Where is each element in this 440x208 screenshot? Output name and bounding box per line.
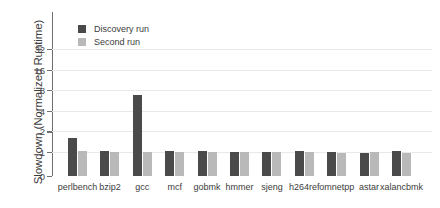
bar-group xyxy=(262,12,281,176)
legend-item-second-run: Second run xyxy=(78,35,149,48)
bar-second-run xyxy=(240,152,249,176)
bar-group xyxy=(230,12,249,176)
bar-second-run xyxy=(208,152,217,176)
x-tick-label: xalancbmk xyxy=(380,182,423,192)
bar-second-run xyxy=(110,152,119,176)
bar-discovery-run xyxy=(100,151,109,176)
bar-discovery-run xyxy=(360,153,369,176)
bar-second-run xyxy=(78,151,87,176)
bar-group xyxy=(392,12,411,176)
bar-discovery-run xyxy=(165,151,174,176)
y-axis-title: Slowdown (Normalized Runtime) xyxy=(32,12,44,192)
bar-discovery-run xyxy=(327,152,336,176)
legend-label: Second run xyxy=(94,37,140,47)
bar-discovery-run xyxy=(68,138,77,176)
bar-discovery-run xyxy=(133,95,142,176)
x-tick-label: bzip2 xyxy=(99,182,121,192)
bar-second-run xyxy=(143,152,152,176)
bar-second-run xyxy=(370,152,379,176)
y-tick-label: 1 xyxy=(40,147,45,158)
y-tick-label: 32 xyxy=(34,44,45,55)
bar-discovery-run xyxy=(262,152,271,176)
tick-mark xyxy=(47,176,52,177)
bar-discovery-run xyxy=(198,151,207,176)
x-tick-label: mcf xyxy=(167,182,182,192)
legend-swatch-icon xyxy=(78,25,86,33)
legend-swatch-icon xyxy=(78,38,86,46)
y-tick-label: 8 xyxy=(40,85,45,96)
bar-second-run xyxy=(272,152,281,176)
y-tick-label: 4 xyxy=(40,105,45,116)
legend: Discovery run Second run xyxy=(78,22,149,48)
legend-label: Discovery run xyxy=(94,24,149,34)
bar-group xyxy=(360,12,379,176)
bar-second-run xyxy=(175,152,184,176)
bar-second-run xyxy=(305,152,314,176)
legend-item-discovery-run: Discovery run xyxy=(78,22,149,35)
bar-discovery-run xyxy=(230,152,239,176)
x-tick-label: gcc xyxy=(135,182,149,192)
bar-group xyxy=(165,12,184,176)
bar-discovery-run xyxy=(392,151,401,176)
y-tick-label: 16 xyxy=(34,64,45,75)
y-tick-label: 2 xyxy=(40,126,45,137)
x-tick-label: perlbench xyxy=(58,182,98,192)
bar-group xyxy=(295,12,314,176)
bar-group xyxy=(327,12,346,176)
x-tick-label: h264ref xyxy=(289,182,320,192)
x-tick-label: hmmer xyxy=(225,182,253,192)
bar-second-run xyxy=(337,153,346,176)
x-tick-label: omnetpp xyxy=(319,182,354,192)
x-tick-label: astar xyxy=(359,182,379,192)
bar-discovery-run xyxy=(295,151,304,176)
y-tick-label: 0 xyxy=(40,171,45,182)
bar-group xyxy=(198,12,217,176)
bar-second-run xyxy=(402,153,411,176)
x-tick-label: gobmk xyxy=(194,182,221,192)
x-tick-label: sjeng xyxy=(261,182,283,192)
slowdown-bar-chart: Slowdown (Normalized Runtime) 012481632 … xyxy=(0,0,440,208)
